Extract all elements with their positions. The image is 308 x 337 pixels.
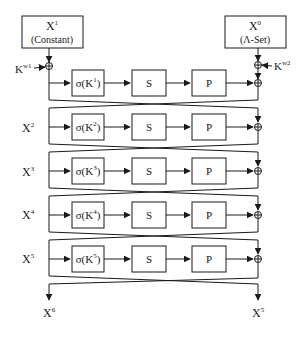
output-x5-label: X5 (252, 306, 265, 320)
svg-text:P: P (206, 77, 212, 89)
round-label-x2: X2 (22, 121, 35, 135)
svg-text:P: P (206, 209, 212, 221)
key-kw2-label: Kw2 (274, 59, 291, 72)
input-box-x0: X0 (Λ-Set) (225, 16, 286, 48)
xor-icon (255, 62, 262, 69)
output-x6-label: X6 (43, 306, 56, 320)
round-label-x3: X3 (22, 165, 35, 179)
round-5: X5 σ(K5) S P (22, 246, 262, 300)
sigma-k1: σ(K1) (76, 76, 101, 90)
svg-text:σ(K3): σ(K3) (76, 164, 101, 178)
key-kw1-label: Kw1 (15, 62, 32, 75)
arrow-kw2 (262, 65, 272, 66)
svg-text:P: P (206, 121, 212, 133)
svg-text:S: S (146, 121, 152, 133)
round-label-x5: X5 (22, 252, 35, 266)
svg-text:(Λ-Set): (Λ-Set) (240, 34, 270, 46)
svg-text:σ(K4): σ(K4) (76, 208, 101, 222)
svg-text:σ(K2): σ(K2) (76, 120, 101, 134)
xor-icon (46, 63, 53, 70)
svg-text:S: S (146, 165, 152, 177)
svg-text:σ(K5): σ(K5) (76, 252, 101, 266)
round-label-x4: X4 (22, 208, 35, 222)
svg-text:(Constant): (Constant) (31, 34, 73, 46)
svg-text:P: P (206, 165, 212, 177)
svg-text:S: S (146, 77, 152, 89)
svg-text:S: S (146, 253, 152, 265)
svg-text:S: S (146, 209, 152, 221)
svg-text:P: P (206, 253, 212, 265)
feistel-diagram: X1 (Constant) X0 (Λ-Set) Kw1 Kw2 σ(K1) S… (0, 0, 308, 337)
arrow-kw1 (34, 67, 45, 68)
input-box-x1: X1 (Constant) (22, 16, 83, 48)
